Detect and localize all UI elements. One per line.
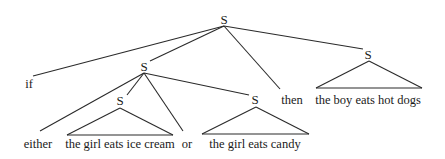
word-then: then [281,94,303,107]
node-root-s: S [220,13,227,26]
edge-antecedent-disjunct-right [144,73,249,95]
word-either: either [24,138,52,151]
node-antecedent-s: S [140,60,147,73]
syntax-tree-diagram: S S S S S if then either or the girl eat… [0,0,445,159]
phrase-disjunct-right: the girl eats candy [209,138,300,151]
triangle-right-side-b [256,107,309,134]
triangle-consequent-side-b [369,61,422,88]
edge-root-if [33,26,224,76]
edge-root-then [224,26,280,89]
word-if: if [25,78,33,91]
edge-root-antecedent [150,26,224,61]
edge-antecedent-disjunct-left [127,73,144,95]
node-disjunct-right-s: S [251,93,258,106]
edge-root-consequent [224,26,363,49]
phrase-disjunct-left: the girl eats ice cream [65,138,175,151]
triangle-left-side-b [120,108,173,135]
node-consequent-s: S [364,48,371,61]
phrase-consequent: the boy eats hot dogs [315,94,421,107]
edge-antecedent-or [144,73,183,131]
triangle-consequent-side-a [316,61,369,88]
node-disjunct-left-s: S [116,94,123,107]
triangle-right-side-a [202,107,256,134]
word-or: or [182,138,192,151]
